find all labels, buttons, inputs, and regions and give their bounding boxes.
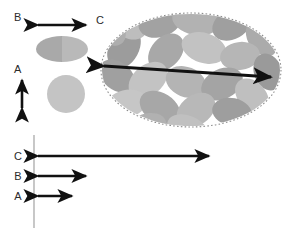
figure-root: B A C: [0, 0, 289, 232]
scale-row-b-label: B: [14, 170, 22, 182]
panel-a-label: A: [14, 63, 22, 75]
length-scale-diagram: B A C: [0, 0, 289, 232]
scale-row-a-label: A: [14, 190, 22, 202]
panel-c-label: C: [96, 14, 104, 26]
panel-a-particle: [47, 75, 85, 113]
panel-b-label: B: [14, 11, 22, 23]
scale-row-c-label: C: [14, 150, 22, 162]
